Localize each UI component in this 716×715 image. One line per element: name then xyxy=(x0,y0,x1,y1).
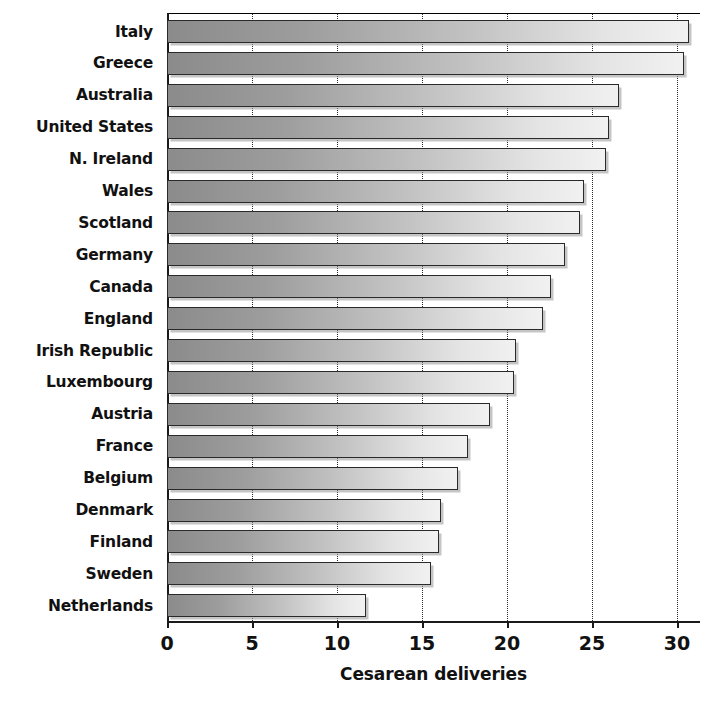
x-tick-mark xyxy=(167,621,169,628)
x-tick-label: 5 xyxy=(222,632,282,654)
x-tick-label: 15 xyxy=(392,632,452,654)
category-label: Sweden xyxy=(0,566,153,582)
bar[interactable] xyxy=(167,116,609,139)
x-tick-mark xyxy=(507,621,509,628)
plot-area xyxy=(167,13,700,621)
bar[interactable] xyxy=(167,243,565,266)
category-label: Austria xyxy=(0,406,153,422)
x-tick-mark xyxy=(337,621,339,628)
x-tick-label: 10 xyxy=(307,632,367,654)
bar[interactable] xyxy=(167,530,439,553)
bar[interactable] xyxy=(167,435,468,458)
bar[interactable] xyxy=(167,594,366,617)
x-axis-title: Cesarean deliveries xyxy=(167,664,700,684)
category-label: France xyxy=(0,438,153,454)
bar[interactable] xyxy=(167,20,689,43)
gridline-30 xyxy=(677,14,678,621)
category-label: Wales xyxy=(0,183,153,199)
bar[interactable] xyxy=(167,211,580,234)
category-label: Canada xyxy=(0,279,153,295)
bar[interactable] xyxy=(167,180,584,203)
plot-top-rule xyxy=(167,13,700,14)
x-axis-line xyxy=(167,621,700,623)
x-tick-mark xyxy=(592,621,594,628)
bar[interactable] xyxy=(167,562,431,585)
category-label: Luxembourg xyxy=(0,374,153,390)
category-label: England xyxy=(0,311,153,327)
bar[interactable] xyxy=(167,499,441,522)
x-tick-mark xyxy=(252,621,254,628)
bar[interactable] xyxy=(167,307,543,330)
category-label: Netherlands xyxy=(0,598,153,614)
x-tick-mark xyxy=(422,621,424,628)
x-tick-label: 0 xyxy=(137,632,197,654)
bar[interactable] xyxy=(167,148,606,171)
cesarean-deliveries-bar-chart: ItalyGreeceAustraliaUnited StatesN. Irel… xyxy=(0,0,716,715)
bar[interactable] xyxy=(167,467,458,490)
category-label: Finland xyxy=(0,534,153,550)
category-label: United States xyxy=(0,119,153,135)
category-label: Scotland xyxy=(0,215,153,231)
bar[interactable] xyxy=(167,371,514,394)
bar[interactable] xyxy=(167,52,684,75)
x-tick-label: 30 xyxy=(647,632,707,654)
bar[interactable] xyxy=(167,275,551,298)
category-label: Denmark xyxy=(0,502,153,518)
bar[interactable] xyxy=(167,84,619,107)
x-tick-label: 25 xyxy=(562,632,622,654)
category-label: Belgium xyxy=(0,470,153,486)
x-tick-mark xyxy=(677,621,679,628)
bar[interactable] xyxy=(167,339,516,362)
category-label: Germany xyxy=(0,247,153,263)
category-label: Greece xyxy=(0,55,153,71)
bar[interactable] xyxy=(167,403,490,426)
category-label: Irish Republic xyxy=(0,343,153,359)
category-label: Australia xyxy=(0,87,153,103)
x-tick-label: 20 xyxy=(477,632,537,654)
category-label: Italy xyxy=(0,24,153,40)
category-label: N. Ireland xyxy=(0,151,153,167)
